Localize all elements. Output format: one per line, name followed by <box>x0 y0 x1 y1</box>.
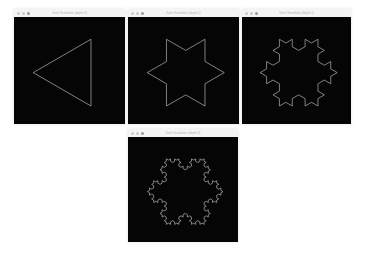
window-koch-depth-1[interactable]: Koch Snowflake (depth 1) <box>128 9 239 124</box>
close-button[interactable] <box>131 132 134 135</box>
desktop: Koch Snowflake (depth 0) Koch Snowflake … <box>0 0 365 255</box>
minimize-button[interactable] <box>250 12 253 15</box>
snowflake-path <box>33 39 91 106</box>
close-button[interactable] <box>17 12 20 15</box>
traffic-lights <box>17 12 30 15</box>
minimize-button[interactable] <box>22 12 25 15</box>
drawing-canvas <box>242 17 351 124</box>
minimize-button[interactable] <box>136 12 139 15</box>
koch-snowflake-drawing <box>128 17 239 124</box>
drawing-canvas <box>128 17 239 124</box>
close-button[interactable] <box>245 12 248 15</box>
snowflake-path <box>260 39 337 106</box>
window-title: Koch Snowflake (depth 0) <box>14 9 125 17</box>
traffic-lights <box>245 12 258 15</box>
minimize-button[interactable] <box>136 132 139 135</box>
window-koch-depth-0[interactable]: Koch Snowflake (depth 0) <box>14 9 125 124</box>
title-bar[interactable]: Koch Snowflake (depth 2) <box>242 9 351 17</box>
snowflake-path <box>147 39 224 106</box>
close-button[interactable] <box>131 12 134 15</box>
snowflake-path <box>147 159 223 224</box>
window-title: Koch Snowflake (depth 2) <box>242 9 351 17</box>
drawing-canvas <box>14 17 125 124</box>
traffic-lights <box>131 12 144 15</box>
zoom-button[interactable] <box>27 12 30 15</box>
koch-snowflake-drawing <box>14 17 125 124</box>
drawing-canvas <box>128 137 238 242</box>
window-koch-depth-3[interactable]: Koch Snowflake (depth 3) <box>128 129 238 242</box>
zoom-button[interactable] <box>141 12 144 15</box>
window-title: Koch Snowflake (depth 3) <box>128 129 238 137</box>
koch-snowflake-drawing <box>242 17 351 124</box>
title-bar[interactable]: Koch Snowflake (depth 1) <box>128 9 239 17</box>
title-bar[interactable]: Koch Snowflake (depth 3) <box>128 129 238 137</box>
title-bar[interactable]: Koch Snowflake (depth 0) <box>14 9 125 17</box>
koch-snowflake-drawing <box>128 137 238 242</box>
zoom-button[interactable] <box>255 12 258 15</box>
window-title: Koch Snowflake (depth 1) <box>128 9 239 17</box>
traffic-lights <box>131 132 144 135</box>
zoom-button[interactable] <box>141 132 144 135</box>
window-koch-depth-2[interactable]: Koch Snowflake (depth 2) <box>242 9 351 124</box>
